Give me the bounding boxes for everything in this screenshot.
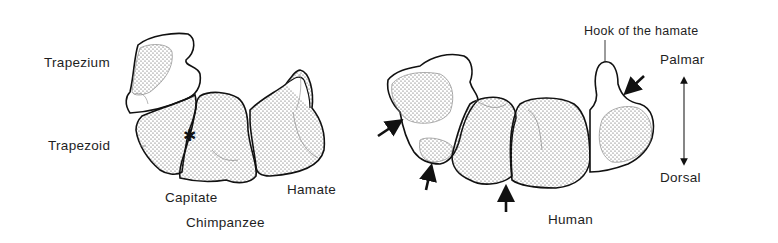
hook-of-hamate-label: Hook of the hamate	[584, 24, 699, 38]
human-hamate-bone	[590, 40, 654, 172]
human-capitate-bone	[511, 98, 591, 188]
capitate-label: Capitate	[165, 190, 218, 205]
human-caption: Human	[548, 212, 593, 227]
human-panel	[378, 40, 684, 212]
arrow-icon	[426, 172, 430, 190]
chimpanzee-caption: Chimpanzee	[186, 215, 265, 230]
chimpanzee-panel: ✱	[126, 33, 324, 182]
hamate-label: Hamate	[287, 182, 336, 197]
asterisk-marker-icon: ✱	[183, 126, 196, 145]
trapezoid-label: Trapezoid	[48, 138, 110, 153]
arrow-icon	[630, 76, 644, 89]
hamate-bone	[250, 70, 324, 176]
trapezium-label: Trapezium	[44, 55, 110, 70]
dorsal-label: Dorsal	[660, 170, 701, 185]
arrow-icon	[378, 124, 396, 136]
palmar-label: Palmar	[660, 52, 705, 67]
